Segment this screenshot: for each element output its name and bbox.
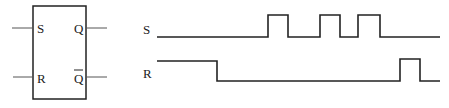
timing-diagram: S R	[143, 15, 440, 81]
r-wave-label: R	[143, 66, 152, 81]
s-input-label: S	[37, 21, 44, 36]
s-wave-label: S	[143, 22, 150, 37]
flipflop-block: S R Q Q	[12, 6, 107, 99]
s-waveform	[157, 15, 440, 37]
r-waveform	[157, 59, 440, 81]
sr-flipflop-diagram: S R Q Q S R	[0, 0, 449, 108]
r-input-label: R	[37, 71, 46, 86]
qbar-output-label: Q	[74, 71, 84, 86]
q-output-label: Q	[74, 21, 84, 36]
